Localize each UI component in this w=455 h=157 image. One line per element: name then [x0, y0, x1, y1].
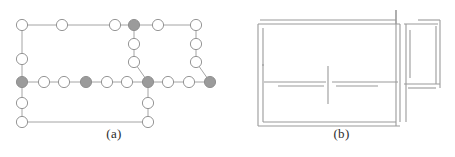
wall-layer	[258, 10, 440, 126]
graph-node[interactable]	[190, 19, 201, 30]
graph-node[interactable]	[190, 56, 201, 67]
graph-node-marked[interactable]	[80, 76, 91, 87]
graph-canvas	[0, 0, 228, 135]
graph-node[interactable]	[101, 76, 112, 87]
graph-node-marked[interactable]	[16, 76, 27, 87]
graph-node[interactable]	[16, 97, 27, 108]
graph-node[interactable]	[128, 56, 139, 67]
graph-node[interactable]	[183, 76, 194, 87]
graph-node[interactable]	[109, 19, 120, 30]
graph-edge-layer	[22, 25, 210, 122]
graph-node[interactable]	[16, 53, 27, 64]
graph-node[interactable]	[58, 76, 69, 87]
graph-node[interactable]	[152, 19, 163, 30]
panel-graph: (a)	[0, 0, 228, 157]
graph-node[interactable]	[38, 76, 49, 87]
floorplan-canvas	[228, 0, 455, 135]
graph-node-marked[interactable]	[142, 76, 153, 87]
graph-node[interactable]	[142, 97, 153, 108]
graph-node[interactable]	[128, 38, 139, 49]
figure-root: (a) (b)	[0, 0, 455, 157]
graph-node-layer	[16, 19, 215, 127]
graph-node[interactable]	[16, 19, 27, 30]
graph-node[interactable]	[56, 19, 67, 30]
graph-node-marked[interactable]	[204, 76, 215, 87]
graph-node[interactable]	[162, 76, 173, 87]
graph-node[interactable]	[121, 76, 132, 87]
caption-a: (a)	[0, 126, 228, 142]
graph-node-marked[interactable]	[128, 19, 139, 30]
panel-floorplan: (b)	[228, 0, 455, 157]
caption-b: (b)	[228, 126, 455, 142]
graph-node[interactable]	[190, 38, 201, 49]
